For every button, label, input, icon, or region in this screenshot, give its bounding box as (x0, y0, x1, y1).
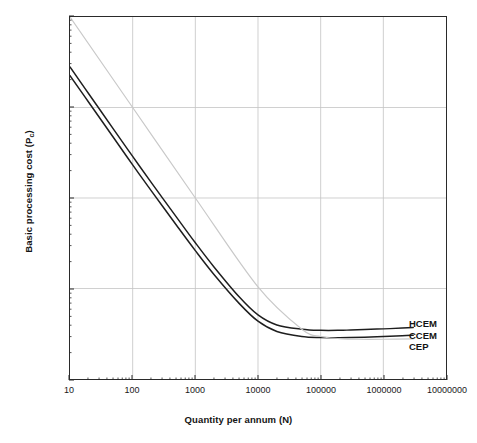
x-tick-label: 10000 (245, 385, 270, 395)
legend-label-cep: CEP (409, 342, 429, 352)
x-tick-label: 1000000 (366, 385, 401, 395)
y-axis-title: Basic processing cost (Pc) (23, 82, 34, 302)
x-tick-label: 1000 (185, 385, 205, 395)
x-tick-label: 100000 (306, 385, 336, 395)
x-axis-title: Quantity per annum (N) (0, 414, 477, 425)
chart-figure: 10000 1000 100 10 1 10 100 1000 10000 10… (0, 0, 477, 443)
y-axis-title-subscript: c (28, 133, 35, 137)
legend-label-ccem: CCEM (409, 331, 437, 341)
x-tick-labels: 10 100 1000 10000 100000 1000000 1000000… (0, 0, 477, 443)
legend-label-hcem: HCEM (409, 319, 437, 329)
x-tick-label: 100 (124, 385, 139, 395)
y-axis-title-main: Basic processing cost (P (23, 137, 34, 252)
x-tick-label: 10 (64, 385, 74, 395)
x-tick-label: 10000000 (427, 385, 467, 395)
